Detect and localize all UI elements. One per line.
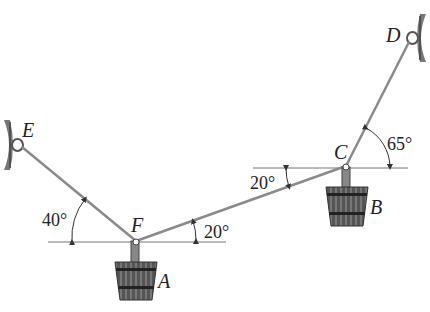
label-D: D bbox=[385, 24, 401, 46]
label-B: B bbox=[370, 196, 382, 218]
label-A: A bbox=[156, 270, 171, 292]
wall-support-D bbox=[407, 14, 426, 62]
cable-EF bbox=[22, 147, 136, 241]
angle-arc-20-F bbox=[193, 221, 196, 241]
label-E: E bbox=[21, 119, 34, 141]
angle-label-20-C: 20° bbox=[250, 173, 275, 193]
angle-arc-20-C bbox=[286, 168, 289, 187]
wall-support-E bbox=[4, 120, 23, 170]
angle-label-40: 40° bbox=[42, 210, 67, 230]
bucket-A bbox=[115, 239, 157, 300]
bucket-B bbox=[326, 164, 368, 226]
label-F: F bbox=[130, 214, 144, 236]
cable-system-diagram: E F C D A B 40° 20° 20° 65° bbox=[0, 0, 430, 312]
angle-label-20-F: 20° bbox=[204, 222, 229, 242]
label-C: C bbox=[334, 141, 348, 163]
cable-FC bbox=[136, 166, 346, 241]
angle-arc-40 bbox=[72, 199, 85, 242]
angle-label-65: 65° bbox=[387, 134, 412, 154]
